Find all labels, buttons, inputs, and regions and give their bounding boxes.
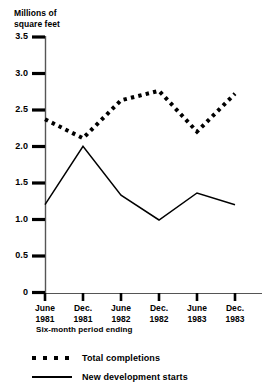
legend-item-new-development-starts: New development starts (30, 367, 270, 386)
legend-swatch-dotted-icon (30, 352, 74, 364)
series-line-new-development-starts (45, 146, 235, 220)
y-tick-label-3.5: 3.5 (2, 31, 28, 41)
legend-label-total-completions: Total completions (82, 353, 160, 363)
y-tick-label-1.5: 1.5 (2, 177, 28, 187)
y-tick-label-0: 0 (2, 287, 28, 297)
chart-legend: Total completions New development starts (30, 348, 270, 386)
y-tick-label-2.5: 2.5 (2, 104, 28, 114)
legend-swatch-solid-icon (30, 371, 74, 383)
y-tick-label-3.0: 3.0 (2, 68, 28, 78)
y-tick-label-2.0: 2.0 (2, 141, 28, 151)
x-axis-title: Six-month period ending (36, 325, 133, 336)
y-axis-ticks (32, 37, 45, 293)
y-tick-label-1.0: 1.0 (2, 214, 28, 224)
x-tick-label-dec-1983: Dec. 1983 (213, 303, 257, 324)
legend-label-new-development-starts: New development starts (82, 372, 188, 382)
legend-item-total-completions: Total completions (30, 348, 270, 367)
x-axis-ticks (45, 293, 235, 301)
y-tick-label-0.5: 0.5 (2, 250, 28, 260)
chart-container: Millions of square feet (0, 0, 274, 390)
series-line-total-completions (45, 91, 235, 138)
